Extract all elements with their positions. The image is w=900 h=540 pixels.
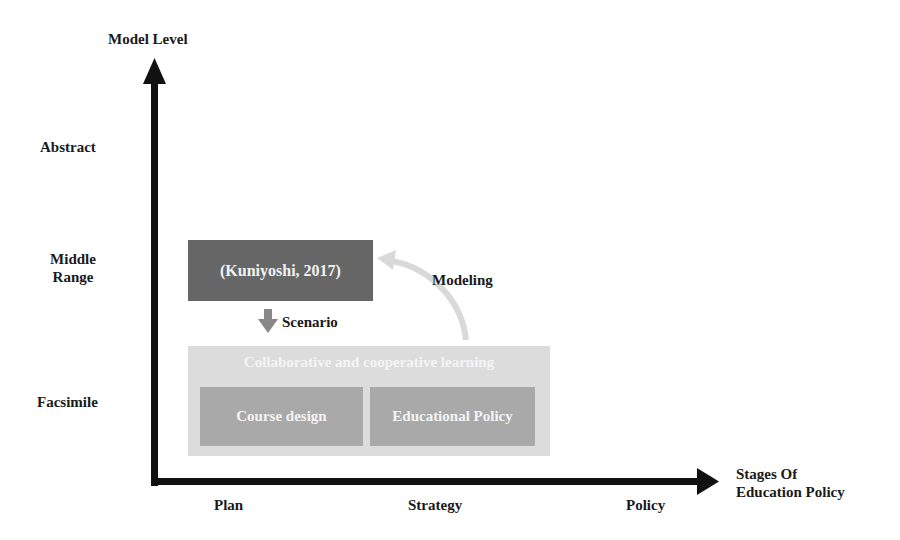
x-axis-line bbox=[151, 478, 699, 485]
y-level-middle-range-line2: Range bbox=[38, 268, 108, 286]
scenario-arrow-icon bbox=[258, 319, 278, 333]
modeling-label: Modeling bbox=[432, 271, 493, 289]
y-level-middle-range: Middle Range bbox=[38, 250, 108, 286]
modeling-arrowhead-icon bbox=[377, 250, 396, 270]
y-axis-title: Model Level bbox=[108, 30, 188, 48]
scenario-label: Scenario bbox=[282, 313, 338, 331]
x-axis-title: Stages Of Education Policy bbox=[736, 465, 845, 501]
y-axis-arrowhead-icon bbox=[143, 58, 166, 84]
x-stage-strategy: Strategy bbox=[408, 496, 462, 514]
educational-policy-box: Educational Policy bbox=[370, 387, 535, 446]
y-level-abstract: Abstract bbox=[40, 138, 96, 156]
educational-policy-label: Educational Policy bbox=[392, 408, 512, 425]
context-box-title: Collaborative and cooperative learning bbox=[188, 354, 550, 371]
course-design-box: Course design bbox=[200, 387, 363, 446]
x-axis-arrowhead-icon bbox=[697, 468, 719, 495]
x-stage-policy: Policy bbox=[626, 496, 665, 514]
y-level-facsimile: Facsimile bbox=[37, 393, 98, 411]
model-box-label: (Kuniyoshi, 2017) bbox=[220, 262, 341, 280]
context-box-collaborative-learning: Collaborative and cooperative learning C… bbox=[188, 346, 550, 456]
model-box-kuniyoshi: (Kuniyoshi, 2017) bbox=[188, 240, 373, 301]
diagram-axes-canvas bbox=[0, 0, 900, 540]
y-level-middle-range-line1: Middle bbox=[38, 250, 108, 268]
x-axis-title-line2: Education Policy bbox=[736, 483, 845, 501]
x-stage-plan: Plan bbox=[214, 496, 243, 514]
scenario-arrow-shaft bbox=[264, 309, 272, 320]
course-design-label: Course design bbox=[236, 408, 326, 425]
y-axis-line bbox=[151, 80, 158, 486]
x-axis-title-line1: Stages Of bbox=[736, 465, 845, 483]
